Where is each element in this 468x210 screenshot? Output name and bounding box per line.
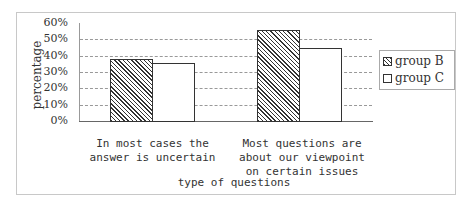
y-tick: 0% bbox=[38, 114, 68, 127]
x-category-label: Most questions are about our viewpoint o… bbox=[232, 137, 372, 179]
legend-item-group-c: group C bbox=[383, 71, 444, 85]
white-swatch-icon bbox=[383, 74, 392, 83]
bar-group-c-cat0 bbox=[152, 63, 195, 122]
y-tick: 30% bbox=[38, 65, 68, 78]
legend-item-group-b: group B bbox=[383, 54, 444, 68]
hatched-swatch-icon bbox=[383, 57, 392, 66]
bar-group-b-cat1 bbox=[257, 30, 300, 122]
y-tick: 10% bbox=[38, 98, 68, 111]
y-tick: 40% bbox=[38, 49, 68, 62]
gridline bbox=[80, 39, 372, 40]
bar-group-c-cat1 bbox=[299, 48, 342, 122]
x-axis-title: type of questions bbox=[0, 176, 468, 189]
y-tick: 20% bbox=[38, 81, 68, 94]
bar-group-b-cat0 bbox=[110, 59, 153, 122]
y-axis bbox=[79, 23, 80, 121]
y-tick: 50% bbox=[38, 32, 68, 45]
legend: group B group C bbox=[379, 50, 455, 90]
y-tick: 60% bbox=[38, 16, 68, 29]
x-category-label: In most cases the answer is uncertain bbox=[85, 137, 220, 165]
